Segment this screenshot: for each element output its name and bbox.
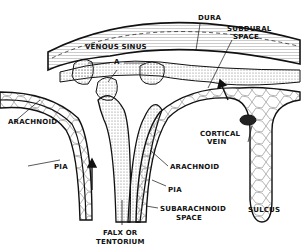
label-subarachnoid-space-line2: SPACE: [176, 214, 202, 222]
label-arachnoid-right: ARACHNOID: [170, 163, 219, 171]
label-pia-right: PIA: [168, 186, 182, 194]
meninges-diagram: DURA VENOUS SINUS SUBDURAL SPACE A ARACH…: [0, 0, 308, 252]
diagram-artwork: [0, 0, 308, 252]
cortical-vein: [240, 115, 256, 125]
falx-tentorium: [98, 96, 130, 222]
venous-sinus: [60, 61, 300, 85]
label-subarachnoid-space-line1: SUBARACHNOID: [160, 205, 226, 213]
label-falx-line2: TENTORIUM: [96, 238, 145, 246]
label-falx-line1: FALX OR: [103, 229, 137, 237]
label-cortical-vein-line1: CORTICAL: [200, 130, 240, 138]
label-a-marker: A: [114, 58, 120, 66]
label-arachnoid-left: ARACHNOID: [8, 118, 57, 126]
label-venous-sinus: VENOUS SINUS: [85, 43, 147, 51]
label-cortical-vein-line2: VEIN: [207, 138, 226, 146]
label-subdural-space-line1: SUBDURAL: [227, 25, 271, 33]
label-subdural-space-line2: SPACE: [233, 33, 259, 41]
left-cortex: [0, 92, 92, 220]
label-dura: DURA: [198, 14, 221, 22]
label-sulcus: SULCUS: [248, 206, 280, 214]
label-pia-left: PIA: [54, 163, 68, 171]
